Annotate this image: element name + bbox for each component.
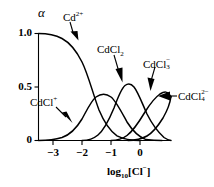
species-base-cdcl4-2minus: CdCl — [178, 90, 201, 102]
species-label-cd2plus: Cd2+ — [63, 12, 83, 23]
speciation-diagram-figure: α 1.0 0.5 0 −3 −2 −1 0 log10[Cl−] Cd2+ C… — [0, 0, 214, 187]
x-axis-title: log10[Cl−] — [107, 166, 150, 177]
annotation-arrow-cdcl2 — [114, 55, 123, 83]
y-axis-title: α — [38, 6, 45, 19]
x-axis-title-bracket-close: ] — [147, 165, 151, 177]
curve-cd2plus — [39, 34, 141, 141]
species-base-cdcl3minus: CdCl — [143, 58, 166, 70]
species-label-cdcl4-2minus: CdCl2−4 — [178, 89, 209, 102]
x-tick-label-2: −2 — [72, 147, 92, 158]
x-tick-marks — [53, 141, 140, 146]
species-sub-cdcl3minus: 3 — [166, 64, 170, 71]
species-base-cdclplus: CdCl — [30, 96, 53, 108]
species-sub-cdcl4-2minus: 4 — [201, 96, 208, 103]
species-base-cdcl2: CdCl — [97, 43, 120, 55]
x-axis-title-base: 10 — [121, 172, 128, 180]
y-tick-label-1: 1.0 — [4, 27, 32, 38]
x-axis-title-bracket-open: [Cl — [128, 165, 143, 177]
x-tick-label-3: −1 — [101, 147, 121, 158]
species-charge-cd2plus: 2+ — [76, 10, 83, 18]
annotation-arrow-cd2plus — [70, 22, 79, 41]
species-supsub-cdcl3minus: −3 — [166, 57, 170, 70]
annotation-arrow-cdcl3minus — [148, 67, 156, 91]
y-tick-label-2: 0.5 — [4, 81, 32, 92]
species-base-cd2plus: Cd — [63, 11, 76, 23]
species-label-cdclplus: CdCl+ — [30, 97, 57, 108]
x-tick-label-4: 0 — [130, 147, 150, 158]
annotation-arrow-cdclplus — [56, 107, 73, 123]
species-label-cdcl3minus: CdCl−3 — [143, 57, 170, 70]
y-tick-marks — [35, 34, 39, 141]
species-label-cdcl2: CdCl2 — [97, 44, 124, 55]
species-sub-cdcl2: 2 — [120, 50, 124, 58]
x-tick-label-1: −3 — [43, 147, 63, 158]
x-axis-title-log: log — [107, 165, 121, 177]
species-charge-cdclplus: + — [53, 95, 57, 103]
species-supsub-cdcl4-2minus: 2−4 — [201, 89, 208, 102]
y-tick-label-3: 0 — [4, 134, 32, 145]
curve-cdcl2 — [82, 84, 171, 140]
